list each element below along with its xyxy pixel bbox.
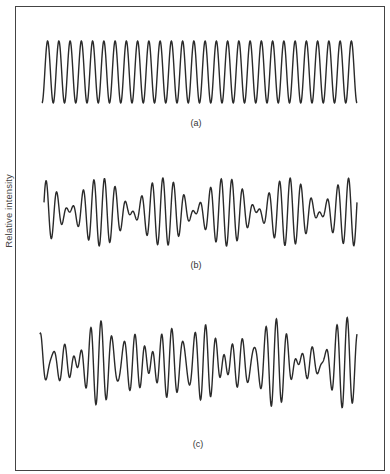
waveform-a: [42, 41, 357, 103]
waveform-plot: [0, 0, 390, 474]
waveform-b: [44, 178, 357, 246]
panel-label-a: (a): [176, 118, 216, 128]
panel-label-b: (b): [176, 260, 216, 270]
waveform-c: [40, 318, 357, 408]
panel-label-c: (c): [178, 439, 218, 449]
